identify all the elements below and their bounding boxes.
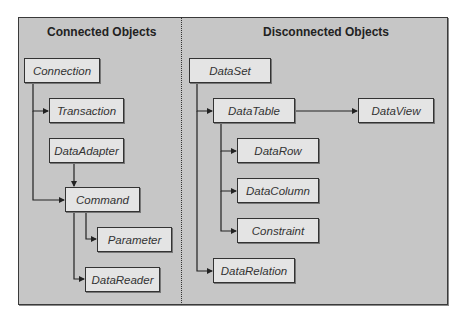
node-constraint: Constraint	[237, 218, 319, 243]
node-data-view: DataView	[358, 98, 434, 123]
node-data-relation: DataRelation	[213, 258, 295, 283]
node-data-table: DataTable	[213, 98, 295, 123]
node-data-column: DataColumn	[237, 178, 319, 203]
node-command: Command	[65, 187, 140, 212]
node-data-row: DataRow	[237, 138, 319, 163]
node-data-reader: DataReader	[85, 267, 160, 292]
node-connection: Connection	[24, 58, 100, 83]
node-transaction: Transaction	[49, 98, 124, 123]
node-data-adapter: DataAdapter	[49, 138, 124, 163]
node-parameter: Parameter	[97, 227, 172, 252]
node-data-set: DataSet	[189, 58, 271, 83]
